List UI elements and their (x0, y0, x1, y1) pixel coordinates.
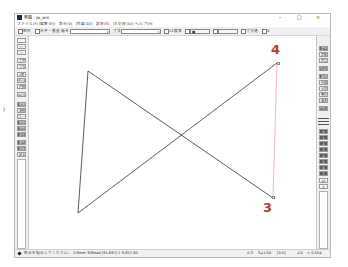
tool-move[interactable]: 移動 (17, 146, 26, 151)
tool-corner[interactable]: コーナー (17, 114, 26, 119)
dimension-combo[interactable]: ▾ (121, 29, 161, 34)
status-zoom[interactable]: × 0.554 (307, 250, 321, 257)
separator-line (318, 121, 329, 122)
tool-chamfer[interactable]: 面取 (17, 126, 26, 131)
circle-tool-icon[interactable]: ○ (17, 50, 26, 55)
layer-button-4[interactable]: 4 (319, 153, 328, 158)
tool-curve[interactable]: 曲線 (319, 74, 328, 79)
left-vertical-line[interactable] (78, 71, 88, 213)
chevron-down-icon[interactable]: ▾ (157, 30, 160, 34)
title-bar: 無題 - jw_win – □ × (15, 14, 330, 21)
tool-polygon[interactable]: 多角形 (319, 66, 328, 71)
rect-label: 矩形 (23, 28, 31, 34)
maximize-button[interactable]: □ (293, 14, 305, 21)
line-tool-icon[interactable]: ／ (17, 38, 26, 43)
status-angle[interactable]: ∠0 (297, 250, 303, 257)
tool-text[interactable]: 文字 (17, 58, 26, 63)
layer-button-5[interactable]: 5 (319, 159, 328, 164)
left-toolbox: ／ □ ○ 文字 寸法 2線 中心線 連線 AUTO 範囲 複線 コーナー 伸縮… (15, 36, 29, 251)
minimize-button[interactable]: – (274, 14, 286, 21)
rectangle-tool-icon[interactable]: □ (17, 44, 26, 49)
option1-button[interactable]: ■ (190, 29, 210, 34)
layer-button-1[interactable]: 1 (319, 135, 328, 140)
status-paper-size[interactable]: A-3 (247, 250, 253, 257)
diagonal-line-2[interactable] (78, 63, 277, 213)
vertex-marker-top[interactable] (277, 62, 280, 65)
close-button[interactable]: × (312, 14, 324, 21)
tool-cleanup[interactable]: 整理 (319, 92, 328, 97)
drawing-svg (29, 36, 316, 251)
tool-centerline[interactable]: 中心線 (17, 78, 26, 83)
tool-block[interactable]: BL化 (319, 106, 328, 111)
tool-continuous[interactable]: 連線 (17, 84, 26, 89)
right-toolbox: 建平 建断 建立 多角形 曲線 包絡 分割 整理 属変 BL化 0 1 2 3 … (316, 36, 330, 251)
app-window: 無題 - jw_win – □ × ファイル(F) [編集(E)] 表示(V) … (14, 13, 331, 258)
separator-line (318, 124, 329, 125)
side-arrow-icon: ) (3, 106, 6, 109)
highlighted-line[interactable] (273, 63, 277, 198)
left-toolbox-empty (17, 159, 26, 249)
tool-range[interactable]: 範囲 (17, 102, 26, 107)
x-label: X (267, 28, 269, 34)
layer-button-7[interactable]: 7 (319, 171, 328, 176)
tool-arch-plan[interactable]: 建平 (319, 46, 328, 51)
diagonal-line-1[interactable] (88, 71, 273, 198)
layer-button-6[interactable]: 6 (319, 165, 328, 170)
angle-label: 15度毎 (169, 28, 182, 34)
layer-button-0[interactable]: 0 (319, 129, 328, 134)
tool-dimension[interactable]: 寸法 (17, 64, 26, 69)
option2-button[interactable] (218, 29, 238, 34)
status-message: 終点を指示してください。 0.8mm 30Read [81.667] 1 9,8… (24, 250, 138, 257)
tool-erase[interactable]: 消去 (17, 132, 26, 137)
layer-button-2[interactable]: 2 (319, 141, 328, 146)
tool-divide[interactable]: 分割 (319, 86, 328, 91)
app-icon (17, 15, 22, 20)
tool-auto[interactable]: AUTO (17, 92, 26, 97)
tool-envelope[interactable]: 包絡 (319, 80, 328, 85)
slope-combo[interactable]: ▾ (70, 29, 110, 34)
drawing-canvas[interactable] (29, 36, 316, 251)
window-title: 無題 - jw_win (24, 14, 49, 21)
tool-arch-section[interactable]: 建断 (319, 52, 328, 57)
status-layer[interactable]: [0-0] (277, 250, 286, 257)
tool-copy[interactable]: 複写 (17, 140, 26, 145)
annotation-4: 4 (271, 43, 280, 56)
layer-all-button[interactable]: All (319, 178, 328, 183)
dimvalue-label: 寸法値 (246, 28, 258, 34)
chevron-down-icon[interactable]: ▾ (106, 30, 109, 34)
toolbar: 矩形 水平・垂直 傾き ▾ 寸法 ▾ 15度毎 ■ 寸法値 X (15, 27, 330, 36)
tool-extend[interactable]: 伸縮 (17, 120, 26, 125)
status-diamond-icon (17, 251, 21, 255)
status-scale[interactable]: S=1/50 (258, 250, 271, 257)
status-bar: 終点を指示してください。 0.8mm 30Read [81.667] 1 9,8… (15, 249, 330, 257)
vertex-marker-bottom[interactable] (272, 196, 275, 199)
slope-label: 傾き (61, 28, 69, 34)
annotation-3: 3 (263, 201, 272, 214)
layer-group-button[interactable]: 0 (319, 184, 328, 189)
tool-attr-change[interactable]: 属変 (319, 98, 328, 103)
right-toolbox-empty (319, 191, 328, 249)
hv-label: 水平・垂直 (40, 28, 60, 34)
tool-double-line[interactable]: 2線 (17, 72, 26, 77)
layer-button-3[interactable]: 3 (319, 147, 328, 152)
tool-arch-elevation[interactable]: 建立 (319, 58, 328, 63)
dimension-label: 寸法 (113, 28, 121, 34)
tool-offset[interactable]: 複線 (17, 108, 26, 113)
separator-line (318, 118, 329, 119)
tool-undo[interactable]: 戻る (17, 152, 26, 157)
